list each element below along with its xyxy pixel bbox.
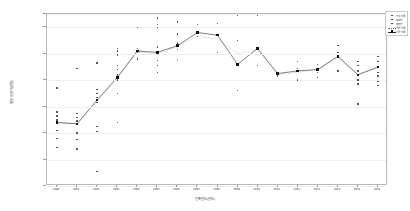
mean-marker [76,123,79,126]
scatter-point [317,72,318,73]
scatter-point [177,60,178,61]
mean-marker [176,44,179,47]
gridline [47,27,386,28]
scatter-point [157,24,158,25]
y-tick-mark [43,79,46,80]
scatter-point [117,54,118,55]
y-tick-mark [43,26,46,27]
x-tick-mark [56,185,57,187]
y-tick-mark [43,53,46,54]
x-tick-mark [176,185,177,187]
scatter-point [377,56,378,57]
scatter-point [56,115,57,116]
scatter-point [76,113,77,114]
scatter-point [117,50,118,51]
scatter-point [56,87,57,88]
scatter-point [137,58,138,59]
x-tick-mark [136,185,137,187]
scatter-point [277,75,278,76]
gridline [47,54,386,55]
scatter-point [357,61,358,62]
scatter-point [217,23,218,24]
x-tick-mark [217,185,218,187]
scatter-point [96,102,97,103]
mean-marker [96,99,99,102]
y-tick-mark [43,185,46,186]
scatter-point [157,72,158,73]
scatter-point [337,70,338,71]
x-tick-mark [116,185,117,187]
x-tick-label: 2016 [365,188,389,191]
legend-marker-icon [387,30,396,34]
scatter-point [297,61,298,62]
mean-marker [316,68,319,71]
x-tick-mark [156,185,157,187]
scatter-point [357,70,358,71]
mean-marker [357,74,360,77]
x-tick-mark [257,185,258,187]
scatter-point [357,65,358,66]
scatter-point [337,52,338,53]
scatter-point [257,65,258,66]
mean-marker [56,121,59,124]
mean-marker [136,50,139,53]
scatter-point [177,33,178,34]
scatter-point [117,69,118,70]
scatter-point [117,79,118,80]
y-tick-mark [43,106,46,107]
scatter-point [137,27,138,28]
scatter-point [117,48,118,49]
scatter-point [357,83,358,84]
scatter-point [357,79,358,80]
scatter-point [56,147,57,148]
scatter-point [96,171,97,172]
x-tick-mark [277,185,278,187]
scatter-point [76,139,77,140]
scatter-point [76,117,77,118]
x-tick-mark [377,185,378,187]
scatter-point [237,40,238,41]
mean-marker [116,76,119,79]
scatter-point [337,45,338,46]
scatter-point [96,126,97,127]
x-tick-mark [317,185,318,187]
x-tick-mark [337,185,338,187]
scatter-point [76,148,77,149]
scatter-point [177,49,178,50]
scatter-point [117,65,118,66]
scatter-point [96,62,97,63]
scatter-point [96,89,97,90]
gridline [47,80,386,81]
y-tick-mark [43,132,46,133]
scatter-point [96,93,97,94]
scatter-point [56,111,57,112]
scatter-point [56,138,57,139]
legend-item[interactable]: 평균 가격 [387,30,405,34]
mean-marker [196,31,199,34]
y-axis-title: 평당 분양가(만원) [10,62,14,122]
x-tick-mark [96,185,97,187]
scatter-point [377,72,378,73]
mean-marker [156,51,159,54]
scatter-point [157,65,158,66]
scatter-point [157,27,158,28]
mean-marker [256,47,259,50]
x-tick-mark [196,185,197,187]
gridline [47,133,386,134]
mean-marker [216,34,219,37]
mean-marker [337,55,340,58]
gridline [47,160,386,161]
scatter-point [377,75,378,76]
y-tick-mark [43,13,46,14]
scatter-point [317,77,318,78]
scatter-point [317,64,318,65]
scatter-point [377,61,378,62]
x-tick-mark [297,185,298,187]
scatter-point [377,85,378,86]
scatter-point [177,21,178,22]
scatter-point [117,93,118,94]
scatter-point [197,36,198,37]
plot-area [46,13,387,185]
mean-marker [236,63,239,66]
x-tick-mark [357,185,358,187]
